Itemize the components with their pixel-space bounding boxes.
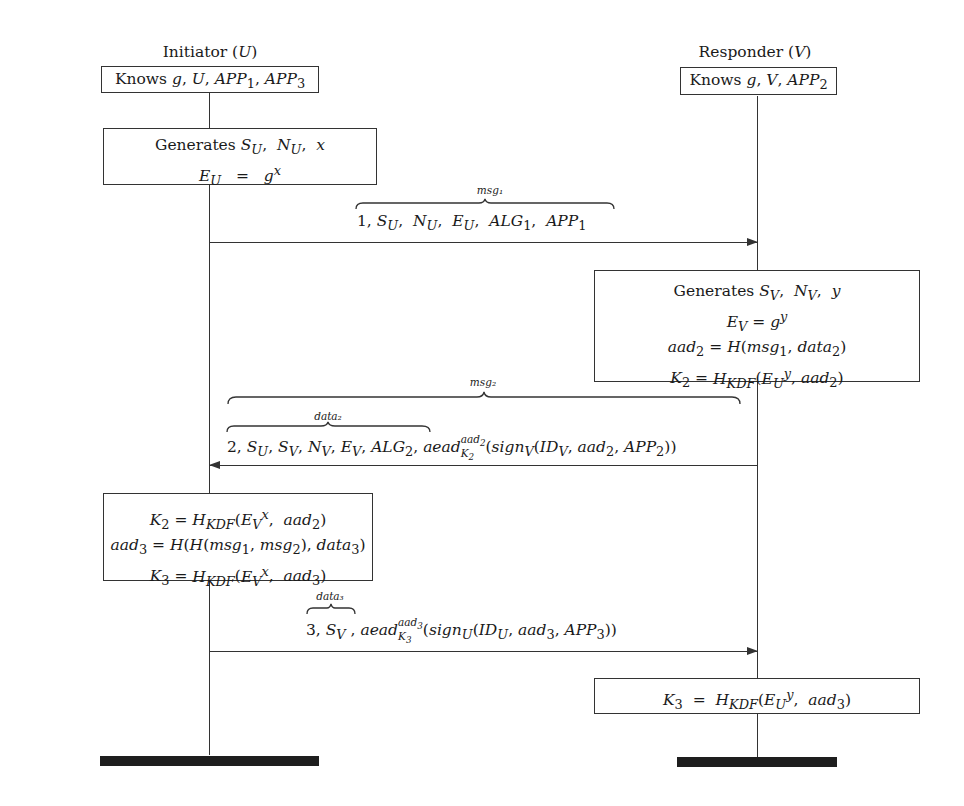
msg3-arrow	[210, 651, 757, 652]
msg1-text: 1, SU, NU, EU, ALG1, APP1	[357, 212, 586, 233]
msg1-arrow	[210, 242, 757, 243]
responder-compute-line-4: K2 = HKDF(EUy, aad2)	[595, 362, 919, 393]
initiator-compute-line-1: K2 = HKDF(EVx, aad2)	[104, 504, 372, 535]
responder-final-line-1: K3 = HKDF(EUy, aad3)	[595, 679, 919, 721]
responder-terminator-bar	[677, 757, 837, 767]
responder-lifeline	[757, 96, 758, 758]
initiator-compute-box: K2 = HKDF(EVx, aad2) aad3 = H(H(msg1, ms…	[103, 493, 373, 581]
msg1-brace	[355, 198, 615, 210]
initiator-generate-line-2: EU = gx	[104, 160, 376, 191]
initiator-knows-box: Knows g, U, APP1, APP3	[101, 66, 319, 93]
data3-inner-brace	[306, 603, 356, 615]
responder-final-box: K3 = HKDF(EUy, aad3)	[594, 678, 920, 714]
data3-brace-label: data₃	[280, 590, 380, 602]
responder-compute-line-1: Generates SV, NV, y	[595, 281, 919, 306]
msg2-brace-label: msg₂	[433, 376, 533, 388]
initiator-lifeline	[209, 93, 210, 755]
responder-knows-box: Knows g, V, APP2	[680, 67, 837, 95]
initiator-title: Initiator (U)	[100, 43, 320, 61]
initiator-compute-line-3: K3 = HKDF(EVx, aad3)	[104, 560, 372, 591]
data2-inner-brace	[226, 421, 431, 433]
initiator-compute-line-2: aad3 = H(H(msg1, msg2), data3)	[104, 535, 372, 560]
msg2-outer-brace	[227, 391, 741, 405]
msg3-text: 3, SV , aeadaad3K3(signU(IDU, aad3, APP3…	[306, 617, 617, 645]
responder-compute-box: Generates SV, NV, y EV = gy aad2 = H(msg…	[594, 270, 920, 382]
msg2-arrow	[210, 465, 757, 466]
initiator-generate-box: Generates SU, NU, x EU = gx	[103, 128, 377, 185]
responder-compute-line-2: EV = gy	[595, 306, 919, 337]
initiator-generate-line-1: Generates SU, NU, x	[104, 135, 376, 160]
responder-compute-line-3: aad2 = H(msg1, data2)	[595, 337, 919, 362]
msg1-brace-label: msg₁	[440, 184, 540, 196]
initiator-terminator-bar	[100, 756, 319, 766]
msg2-text: 2, SU, SV, NV, EV, ALG2, aeadaad2K2(sign…	[227, 434, 676, 462]
responder-title: Responder (V)	[640, 43, 870, 61]
